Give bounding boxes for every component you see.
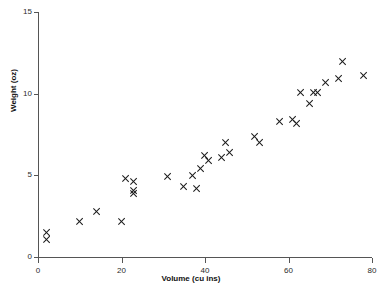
data-point <box>334 74 343 83</box>
data-point <box>117 217 126 226</box>
x-tick-mark <box>372 258 373 263</box>
data-point <box>180 182 189 191</box>
data-point <box>322 78 331 87</box>
data-point <box>359 71 368 80</box>
data-point <box>297 88 306 97</box>
data-point <box>276 117 285 126</box>
y-tick-label: 5 <box>8 170 32 179</box>
y-tick-label: 0 <box>8 252 32 261</box>
y-tick-mark <box>34 175 39 176</box>
data-point <box>221 138 230 147</box>
data-point <box>75 217 84 226</box>
x-tick-mark <box>205 258 206 263</box>
y-tick-label: 15 <box>8 7 32 16</box>
data-point <box>255 138 264 147</box>
data-point <box>192 184 201 193</box>
x-tick-mark <box>289 258 290 263</box>
x-axis-title: Volume (cu ins) <box>0 274 382 283</box>
data-point <box>338 57 347 66</box>
data-point <box>292 119 301 128</box>
y-tick-mark <box>34 12 39 13</box>
y-tick-mark <box>34 94 39 95</box>
x-tick-mark <box>122 258 123 263</box>
y-axis-line <box>38 12 39 258</box>
data-point <box>130 189 139 198</box>
data-point <box>205 156 214 165</box>
data-point <box>42 235 51 244</box>
data-point <box>92 207 101 216</box>
data-point <box>313 88 322 97</box>
y-axis-title: Weight (oz) <box>9 51 18 131</box>
data-point <box>226 148 235 157</box>
data-point <box>163 172 172 181</box>
plot-area: 051015020406080 <box>38 12 372 258</box>
scatter-chart: 051015020406080 Weight (oz) Volume (cu i… <box>0 0 382 303</box>
x-tick-mark <box>38 258 39 263</box>
data-point <box>305 99 314 108</box>
data-point <box>196 164 205 173</box>
